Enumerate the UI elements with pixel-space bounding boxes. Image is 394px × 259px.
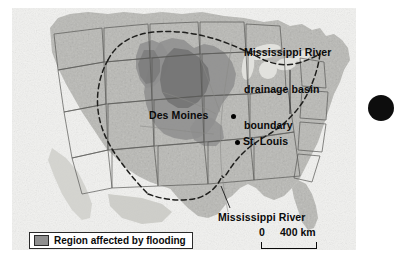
legend-swatch-flooding: [34, 235, 49, 246]
basin-label-line3: boundary: [244, 119, 331, 131]
page-edge-mark: [368, 95, 394, 121]
map-canvas: Mississippi River drainage basin boundar…: [12, 8, 356, 250]
map-legend: Region affected by flooding: [29, 232, 193, 249]
city-dot-st-louis: [235, 140, 240, 145]
scale-bar-rule: [261, 242, 317, 249]
basin-label-line2: drainage basin: [244, 83, 331, 95]
city-dot-des-moines: [231, 114, 236, 119]
scale-zero-label: 0: [259, 226, 265, 238]
scale-max-label: 400 km: [280, 226, 316, 238]
scale-bar-labels: 0 400 km: [259, 226, 332, 239]
city-label-des-moines: Des Moines: [149, 109, 208, 121]
city-label-st-louis: St. Louis: [243, 135, 288, 147]
river-label: Mississippi River: [218, 211, 305, 223]
basin-label-line1: Mississippi River: [244, 46, 331, 58]
scale-bar: 0 400 km: [259, 226, 332, 250]
legend-label-flooding: Region affected by flooding: [54, 235, 186, 246]
